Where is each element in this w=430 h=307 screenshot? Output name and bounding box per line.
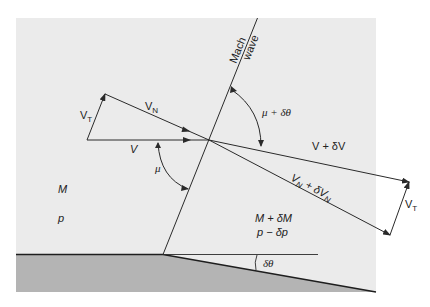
mach-wave-diagram: Mach wave VT VN V μ μ + δθ V + δV VN + δ…	[0, 0, 430, 307]
label-mu-plus-dtheta: μ + δθ	[261, 106, 292, 118]
label-downstream-mach: M + δM	[255, 212, 293, 224]
label-upstream-mach: M	[58, 183, 68, 195]
label-downstream-pressure: p − δp	[256, 226, 288, 238]
label-deflection-angle: δθ	[263, 257, 274, 269]
label-vt-downstream: VT	[405, 198, 417, 213]
panel-background	[16, 18, 376, 292]
label-mu: μ	[154, 162, 161, 174]
label-upstream-pressure: p	[57, 212, 64, 224]
label-v-plus-dv: V + δV	[312, 140, 346, 152]
